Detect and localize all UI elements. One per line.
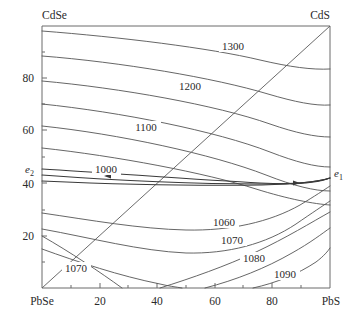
arrowhead-toward-e1	[293, 180, 300, 185]
phase-diagram-svg: 80 60 40 20 PbSe 20 40 60 80 PbS CdSe Cd…	[0, 0, 362, 321]
isotherm-value-labels: 1300 1200 1100 1000 1060 1070	[62, 40, 300, 280]
y-tick-label: 80	[23, 72, 35, 84]
svg-text:1070: 1070	[65, 262, 88, 274]
x-tick-labels: PbSe 20 40 60 80 PbS	[30, 295, 340, 307]
svg-text:1200: 1200	[179, 80, 202, 92]
y-tick-labels: 80 60 40 20	[23, 72, 35, 242]
svg-text:1090: 1090	[274, 268, 297, 280]
y-axis-ticks	[42, 52, 47, 262]
x-tick-label: 60	[209, 295, 221, 307]
isotherm-label-1000: 1000	[92, 163, 121, 175]
isotherm-label-1080: 1080	[240, 252, 269, 264]
isotherm-label-1070-right: 1070	[218, 234, 247, 246]
svg-text:1060: 1060	[213, 216, 236, 228]
svg-text:1000: 1000	[95, 163, 118, 175]
x-axis-ticks	[71, 283, 301, 288]
isotherm-label-1060: 1060	[210, 216, 239, 228]
y-tick-label: 40	[23, 178, 35, 190]
corner-label-cdse: CdSe	[42, 9, 67, 21]
svg-text:1080: 1080	[243, 252, 266, 264]
isotherm-label-1200: 1200	[176, 80, 205, 92]
svg-text:1100: 1100	[135, 121, 157, 133]
x-tick-label: 20	[94, 295, 106, 307]
eutectic-label-e2: e2	[25, 163, 34, 178]
eutectic-label-e1: e1	[334, 167, 343, 182]
x-tick-label: 80	[266, 295, 278, 307]
phase-diagram-chart: 80 60 40 20 PbSe 20 40 60 80 PbS CdSe Cd…	[0, 0, 362, 321]
isotherm-label-1300: 1300	[219, 40, 248, 52]
top-corner-labels: CdSe CdS	[42, 9, 330, 21]
isotherm-label-1070-left: 1070	[62, 262, 91, 274]
isotherm-label-1090: 1090	[271, 268, 300, 280]
corner-label-cds: CdS	[310, 9, 330, 21]
eutectic-labels: e2 e1	[25, 163, 343, 182]
y-tick-label: 20	[23, 230, 35, 242]
y-tick-label: 60	[23, 124, 35, 136]
isotherm-label-1100: 1100	[132, 121, 161, 133]
svg-text:1300: 1300	[222, 40, 245, 52]
svg-text:1070: 1070	[221, 234, 244, 246]
x-corner-label-pbs: PbS	[322, 295, 341, 307]
x-tick-label: 40	[151, 295, 163, 307]
x-corner-label-pbse: PbSe	[30, 295, 54, 307]
